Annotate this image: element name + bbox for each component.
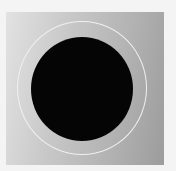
- black-disk: [31, 37, 133, 141]
